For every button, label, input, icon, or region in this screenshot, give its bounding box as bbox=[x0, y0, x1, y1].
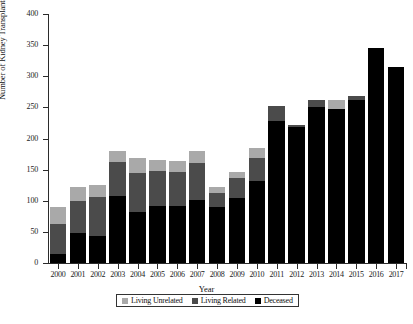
legend-item-living-related: Living Related bbox=[192, 297, 246, 305]
bar-segment-living-related bbox=[89, 197, 106, 236]
bar-segment-living-unrelated bbox=[149, 160, 166, 171]
legend-label: Living Related bbox=[201, 297, 246, 305]
y-axis-tick-label: 100 bbox=[8, 197, 38, 205]
x-axis-tick bbox=[356, 264, 357, 269]
bar-segment-living-related bbox=[209, 193, 226, 207]
x-axis-tick-label: 2011 bbox=[267, 270, 287, 279]
bar-2012 bbox=[288, 125, 305, 263]
bar-2010 bbox=[249, 148, 266, 263]
bar-segment-deceased bbox=[268, 121, 285, 263]
bar-segment-living-unrelated bbox=[328, 100, 345, 109]
kidney-transplantations-bar-chart: Number of Kidney Transplantations 050100… bbox=[0, 0, 413, 324]
bar-2003 bbox=[109, 151, 126, 263]
bar-segment-living-related bbox=[229, 178, 246, 198]
x-axis-tick bbox=[118, 264, 119, 269]
bar-segment-living-related bbox=[268, 106, 285, 121]
x-axis-tick-label: 2005 bbox=[147, 270, 167, 279]
y-axis-tick-label: 0 bbox=[8, 259, 38, 267]
bar-segment-living-unrelated bbox=[169, 161, 186, 172]
bar-segment-living-related bbox=[348, 96, 365, 100]
bar-2013 bbox=[308, 100, 325, 263]
x-axis-tick-label: 2008 bbox=[207, 270, 227, 279]
bar-segment-living-related bbox=[50, 224, 67, 254]
x-axis-tick-label: 2016 bbox=[366, 270, 386, 279]
x-axis-tick-label: 2003 bbox=[108, 270, 128, 279]
legend-swatch-icon bbox=[255, 298, 261, 304]
x-axis-tick-label: 2006 bbox=[167, 270, 187, 279]
bar-segment-deceased bbox=[348, 100, 365, 263]
bar-2015 bbox=[348, 96, 365, 263]
x-axis-tick bbox=[297, 264, 298, 269]
bar-segment-deceased bbox=[229, 198, 246, 263]
x-axis-tick bbox=[197, 264, 198, 269]
y-axis-tick-label: 350 bbox=[8, 41, 38, 49]
legend-item-deceased: Deceased bbox=[255, 297, 293, 305]
bar-segment-living-unrelated bbox=[129, 158, 146, 173]
bar-2004 bbox=[129, 158, 146, 263]
legend-swatch-icon bbox=[192, 298, 198, 304]
x-axis-tick bbox=[237, 264, 238, 269]
bar-segment-living-unrelated bbox=[70, 187, 87, 201]
legend-label: Deceased bbox=[264, 297, 293, 305]
bar-segment-deceased bbox=[308, 107, 325, 263]
bar-segment-living-unrelated bbox=[229, 172, 246, 178]
x-axis-tick-label: 2015 bbox=[346, 270, 366, 279]
x-axis-tick bbox=[177, 264, 178, 269]
plot-area bbox=[48, 14, 406, 263]
bar-segment-deceased bbox=[209, 207, 226, 263]
bar-segment-deceased bbox=[109, 196, 126, 263]
bar-2001 bbox=[70, 187, 87, 263]
x-axis-tick bbox=[157, 264, 158, 269]
chart-legend: Living UnrelatedLiving RelatedDeceased bbox=[116, 294, 299, 307]
x-axis-tick-label: 2004 bbox=[128, 270, 148, 279]
y-axis-tick-label: 300 bbox=[8, 72, 38, 80]
x-axis-tick-label: 2001 bbox=[68, 270, 88, 279]
bar-segment-living-unrelated bbox=[209, 187, 226, 193]
x-axis-label: Year bbox=[0, 284, 413, 294]
bar-segment-deceased bbox=[388, 67, 405, 263]
bar-segment-deceased bbox=[249, 181, 266, 263]
y-axis-label: Number of Kidney Transplantations bbox=[0, 0, 7, 100]
bar-segment-living-related bbox=[249, 158, 266, 180]
x-axis-tick bbox=[217, 264, 218, 269]
bar-2008 bbox=[209, 187, 226, 263]
x-axis-tick-label: 2002 bbox=[88, 270, 108, 279]
y-axis-tick bbox=[43, 263, 49, 264]
x-axis-tick-label: 2007 bbox=[187, 270, 207, 279]
legend-swatch-icon bbox=[122, 298, 128, 304]
x-axis-tick-label: 2013 bbox=[307, 270, 327, 279]
y-axis-tick-label: 50 bbox=[8, 228, 38, 236]
bar-segment-living-unrelated bbox=[189, 151, 206, 163]
bar-segment-deceased bbox=[70, 233, 87, 263]
x-axis-tick bbox=[58, 264, 59, 269]
bar-segment-living-related bbox=[288, 125, 305, 127]
bar-2006 bbox=[169, 161, 186, 263]
x-axis-tick bbox=[336, 264, 337, 269]
bar-segment-deceased bbox=[129, 212, 146, 263]
bar-segment-deceased bbox=[189, 200, 206, 263]
bar-segment-deceased bbox=[368, 48, 385, 263]
bar-segment-deceased bbox=[89, 236, 106, 263]
bar-segment-living-related bbox=[70, 201, 87, 233]
bar-segment-living-related bbox=[308, 100, 325, 107]
x-axis-line bbox=[48, 263, 407, 264]
bar-segment-deceased bbox=[169, 206, 186, 263]
x-axis-tick-label: 2017 bbox=[386, 270, 406, 279]
bar-segment-living-related bbox=[169, 172, 186, 206]
bar-segment-living-related bbox=[149, 171, 166, 206]
bar-2014 bbox=[328, 100, 345, 263]
bar-2009 bbox=[229, 172, 246, 263]
x-axis-tick bbox=[78, 264, 79, 269]
bar-segment-living-related bbox=[109, 162, 126, 196]
x-axis-tick bbox=[396, 264, 397, 269]
bar-2005 bbox=[149, 160, 166, 263]
x-axis-tick bbox=[138, 264, 139, 269]
bar-segment-living-unrelated bbox=[109, 151, 126, 162]
legend-label: Living Unrelated bbox=[131, 297, 183, 305]
bar-segment-living-related bbox=[129, 173, 146, 212]
y-axis-tick-label: 250 bbox=[8, 103, 38, 111]
bar-segment-living-unrelated bbox=[89, 185, 106, 197]
bar-segment-living-related bbox=[189, 163, 206, 199]
bar-segment-deceased bbox=[50, 254, 67, 263]
x-axis-tick bbox=[376, 264, 377, 269]
